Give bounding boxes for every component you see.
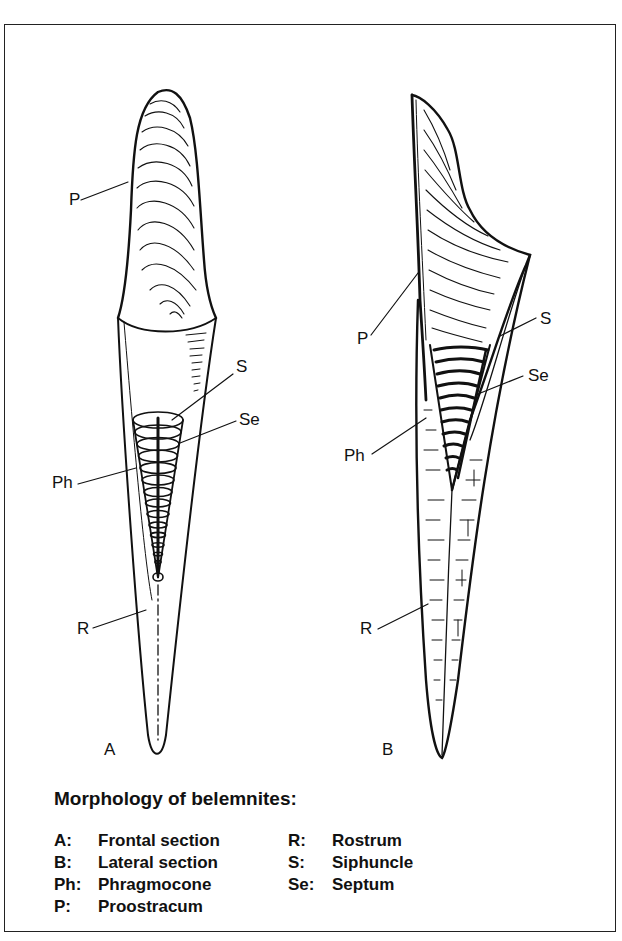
callout-b-proostracum: P (357, 330, 368, 347)
legend-value: Siphuncle (332, 852, 413, 874)
legend-key: R: (288, 830, 332, 852)
callout-b-phragmocone: Ph (344, 447, 365, 464)
legend-item: S:Siphuncle (288, 852, 413, 874)
legend-item: Ph:Phragmocone (54, 874, 220, 896)
b-siphuncle (458, 350, 486, 478)
legend-key: S: (288, 852, 332, 874)
legend-value: Frontal section (98, 830, 220, 852)
callout-a-rostrum: R (77, 620, 89, 637)
legend-right: R:Rostrum S:Siphuncle Se:Septum (288, 830, 413, 896)
callout-b-rostrum: R (360, 620, 372, 637)
b-proostracum-hatching (424, 110, 508, 342)
legend-value: Proostracum (98, 896, 203, 918)
legend-value: Phragmocone (98, 874, 211, 896)
b-leader-lines (371, 273, 536, 629)
callout-a-siphuncle: S (236, 358, 247, 375)
legend-key: Ph: (54, 874, 98, 896)
legend-value: Rostrum (332, 830, 402, 852)
legend-key: P: (54, 896, 98, 918)
panel-b-drawing (371, 95, 536, 758)
panel-a-drawing (78, 90, 236, 754)
a-shading (186, 333, 206, 391)
legend-item: B:Lateral section (54, 852, 220, 874)
legend-left: A:Frontal section B:Lateral section Ph:P… (54, 830, 220, 918)
b-rostrum (416, 255, 530, 758)
callout-a-septum: Se (239, 411, 260, 428)
panel-a-label: A (104, 741, 115, 758)
a-proostracum-growth-lines (137, 101, 196, 318)
panel-b-label: B (382, 741, 393, 758)
legend-key: Se: (288, 874, 332, 896)
callout-b-siphuncle: S (540, 310, 551, 327)
caption-title: Morphology of belemnites: (54, 788, 297, 810)
legend-item: A:Frontal section (54, 830, 220, 852)
callout-b-septum: Se (528, 367, 549, 384)
legend-key: A: (54, 830, 98, 852)
callout-a-phragmocone: Ph (52, 474, 73, 491)
b-proostracum (412, 95, 530, 490)
legend-key: B: (54, 852, 98, 874)
legend-item: Se:Septum (288, 874, 413, 896)
legend-value: Septum (332, 874, 394, 896)
legend-item: P:Proostracum (54, 896, 220, 918)
legend-item: R:Rostrum (288, 830, 413, 852)
legend-value: Lateral section (98, 852, 218, 874)
a-rostrum (118, 318, 216, 754)
callout-a-proostracum: P (69, 191, 80, 208)
